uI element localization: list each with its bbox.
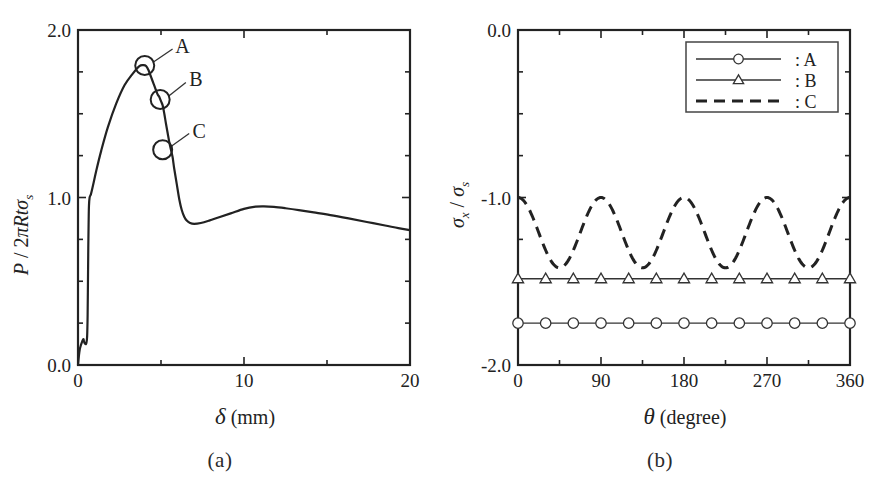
annotation-label-a: A [175, 35, 190, 57]
annotation-leader [171, 134, 190, 147]
circle-marker [817, 318, 827, 328]
circle-marker [734, 54, 744, 64]
svg-text:σx / σs: σx / σs [446, 182, 472, 228]
panel-b-x-axis-title: θ (degree) [644, 404, 727, 429]
y-tick-label: 0.0 [47, 355, 71, 376]
triangle-marker [568, 273, 579, 283]
triangle-marker [623, 273, 634, 283]
triangle-marker [595, 273, 606, 283]
triangle-marker [512, 273, 523, 283]
svg-text:δ (mm): δ (mm) [215, 404, 275, 429]
circle-marker [845, 318, 855, 328]
svg-text:θ (degree): θ (degree) [644, 404, 727, 429]
legend-label-1: : B [795, 71, 817, 91]
annotation-marker-c [153, 140, 172, 159]
y-tick-label: -2.0 [481, 355, 511, 376]
panel-b-stress-distribution: σx / σs 090180270360-2.0-1.00.0 : A: B: … [440, 0, 880, 504]
triangle-marker [734, 273, 745, 283]
x-tick-label: 20 [401, 370, 420, 391]
x-tick-label: 270 [753, 370, 782, 391]
legend-label-0: : A [795, 50, 817, 70]
panel-a-caption: (a) [0, 448, 440, 473]
circle-marker [651, 318, 661, 328]
circle-marker [623, 318, 633, 328]
circle-marker [596, 318, 606, 328]
triangle-marker [678, 273, 689, 283]
triangle-marker [844, 273, 855, 283]
curve-load-displacement [78, 65, 410, 365]
x-tick-label: 180 [670, 370, 699, 391]
x-tick-label: 360 [836, 370, 865, 391]
annotation-leader [168, 82, 186, 96]
triangle-marker [761, 273, 772, 283]
circle-marker [568, 318, 578, 328]
triangle-marker [540, 273, 551, 283]
circle-marker [789, 318, 799, 328]
figure-root: P / 2πRtσs 010200.01.02.0 ABC δ (mm) (a)… [0, 0, 880, 504]
y-tick-label: 0.0 [487, 20, 511, 41]
panel-a-y-axis-title: P / 2πRtσs [10, 195, 36, 277]
annotation-label-c: C [193, 120, 206, 142]
x-tick-label: 10 [235, 370, 254, 391]
annotation-leader [153, 49, 173, 63]
circle-marker [540, 318, 550, 328]
panel-b-caption: (b) [440, 448, 880, 473]
triangle-marker [651, 273, 662, 283]
panel-a-curves [78, 65, 410, 365]
triangle-marker [789, 273, 800, 283]
circle-marker [762, 318, 772, 328]
panel-a-x-axis-title: δ (mm) [215, 404, 275, 429]
circle-marker [513, 318, 523, 328]
y-tick-label: 1.0 [47, 188, 71, 209]
panel-a-chart: P / 2πRtσs 010200.01.02.0 ABC δ (mm) [0, 0, 440, 448]
x-tick-label: 0 [73, 370, 83, 391]
panel-b-y-axis-title: σx / σs [446, 182, 472, 228]
panel-a-annotations: ABC [135, 35, 206, 159]
panel-b-chart: σx / σs 090180270360-2.0-1.00.0 : A: B: … [440, 0, 880, 448]
circle-marker [734, 318, 744, 328]
panel-a-axes: 010200.01.02.0 [47, 20, 419, 391]
curve-series-C [518, 198, 850, 268]
y-tick-label: -1.0 [481, 188, 511, 209]
circle-marker [706, 318, 716, 328]
triangle-marker [706, 273, 717, 283]
panel-b-curves [512, 198, 855, 329]
y-tick-label: 2.0 [47, 20, 71, 41]
x-tick-label: 0 [513, 370, 523, 391]
legend-label-2: : C [795, 92, 817, 112]
triangle-marker [817, 273, 828, 283]
panel-b-legend: : A: B: C [686, 42, 838, 112]
circle-marker [679, 318, 689, 328]
annotation-label-b: B [189, 68, 202, 90]
x-tick-label: 90 [592, 370, 611, 391]
panel-a-load-displacement: P / 2πRtσs 010200.01.02.0 ABC δ (mm) (a) [0, 0, 440, 504]
svg-text:P / 2πRtσs: P / 2πRtσs [10, 195, 36, 277]
